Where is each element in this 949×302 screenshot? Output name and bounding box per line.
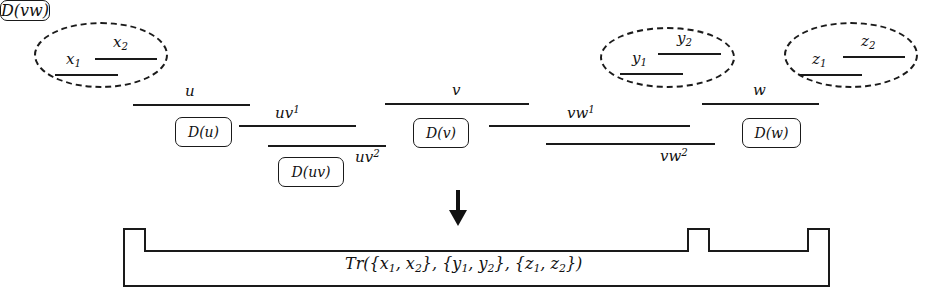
segment-label-y2: y2 xyxy=(677,31,692,48)
segment-u xyxy=(133,104,250,106)
group-ellipse-x xyxy=(34,22,168,88)
segment-vw2 xyxy=(546,143,715,145)
segment-y1 xyxy=(620,73,683,75)
group-ellipse-z xyxy=(784,22,918,88)
dictionary-box-D-u: D(u) xyxy=(175,117,232,147)
dictionary-box-label: D(vw) xyxy=(1,1,49,20)
segment-label-w: w xyxy=(753,83,766,98)
dictionary-box-label: D(u) xyxy=(188,124,219,140)
segment-label-uv1: uv1 xyxy=(275,105,300,121)
segment-label-x1: x1 xyxy=(66,52,81,69)
dictionary-box-D-v: D(v) xyxy=(413,118,469,148)
dictionary-box-label: D(v) xyxy=(426,125,456,141)
segment-label-z1: z1 xyxy=(812,52,826,69)
result-label: Tr({x1, x2}, {y1, y2}, {z1, z2}) xyxy=(345,256,582,275)
segment-v xyxy=(385,103,529,105)
segment-vw1 xyxy=(489,125,690,127)
segment-z1 xyxy=(800,74,862,76)
dictionary-box-D-uv: D(uv) xyxy=(278,157,344,187)
segment-x1 xyxy=(55,74,118,76)
dictionary-box-label: D(uv) xyxy=(291,164,330,180)
dictionary-box-D-w: D(w) xyxy=(742,118,801,148)
segment-label-y1: y1 xyxy=(632,51,647,68)
dictionary-box-label: D(w) xyxy=(754,125,788,141)
group-ellipse-y xyxy=(600,27,735,88)
segment-label-vw1: vw1 xyxy=(567,105,595,121)
segment-z2 xyxy=(843,56,905,58)
diagram-canvas: x2 x1 y2 y1 z2 z1 u D(u) uv1 uv2 D(uv) xyxy=(0,0,949,302)
segment-uv1 xyxy=(239,125,356,127)
segment-label-u: u xyxy=(185,84,195,99)
segment-label-x2: x2 xyxy=(113,35,128,52)
segment-label-v: v xyxy=(452,83,460,98)
segment-w xyxy=(702,103,819,105)
segment-label-z2: z2 xyxy=(861,34,875,51)
segment-x2 xyxy=(95,58,157,60)
segment-label-uv2: uv2 xyxy=(355,149,380,165)
segment-y2 xyxy=(658,53,721,55)
dictionary-box-D-vw: D(vw) xyxy=(0,0,50,21)
segment-label-vw2: vw2 xyxy=(660,148,688,164)
